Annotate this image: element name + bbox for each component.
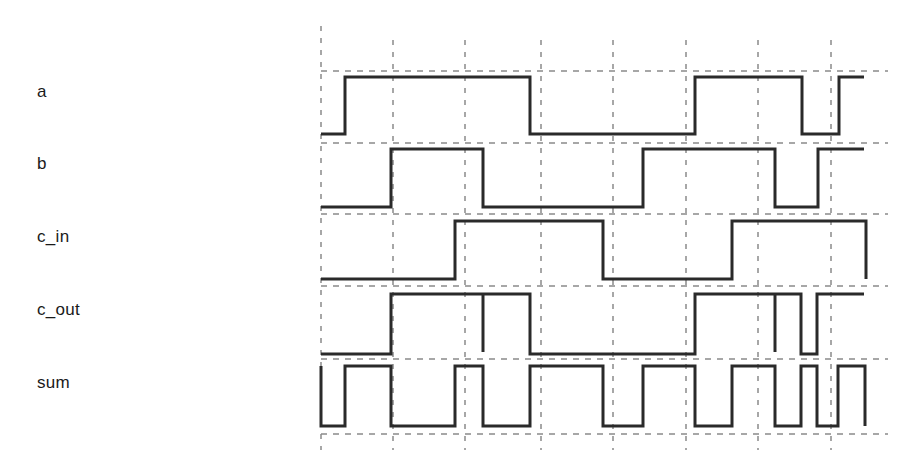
waveform-c-in — [321, 221, 866, 279]
waveform-a — [321, 77, 864, 134]
waveform-c-out — [321, 294, 864, 354]
waveforms — [321, 77, 866, 426]
waveform-b — [321, 149, 864, 207]
timing-diagram — [0, 0, 921, 472]
waveform-sum — [321, 366, 865, 426]
